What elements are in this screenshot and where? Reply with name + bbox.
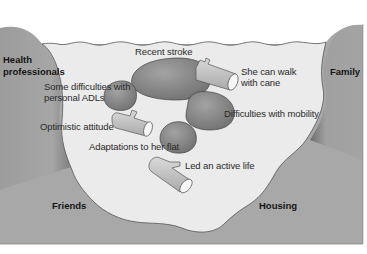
rock-label-adaptations: Adaptations to her flat (89, 141, 179, 152)
rock-label-recent-stroke: Recent stroke (135, 46, 192, 57)
bank-label-friends: Friends (52, 200, 86, 212)
bank-label-housing: Housing (259, 200, 297, 212)
bank-label-health-professionals: Health professionals (3, 54, 65, 78)
log-label-optimistic-attitude: Optimistic attitude (40, 121, 114, 132)
bank-label-family: Family (330, 66, 360, 78)
log-label-active-life: Led an active life (185, 160, 255, 171)
rock-label-mobility: Difficulties with mobility (224, 108, 319, 119)
kawa-river-diagram: Health professionals Family Friends Hous… (0, 0, 367, 254)
log-label-walk-with-cane: She can walk with cane (241, 66, 296, 88)
rock-label-personal-adls: Some difficulties with personal ADLs (44, 81, 130, 103)
